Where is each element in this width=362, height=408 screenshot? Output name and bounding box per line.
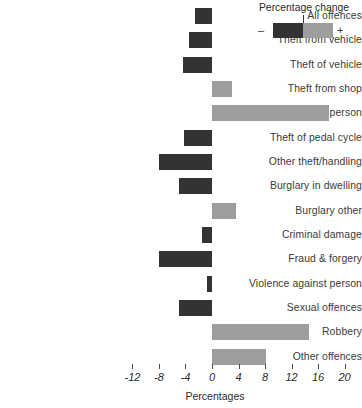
- bar: [179, 178, 212, 194]
- x-axis-tick-mark: [212, 364, 213, 369]
- legend: Percentage change – +: [246, 2, 362, 40]
- legend-swatch-positive: [303, 23, 333, 38]
- category-label: Burglary in dwelling: [236, 180, 362, 192]
- x-axis-tick-mark: [132, 364, 133, 369]
- bar: [183, 57, 212, 73]
- x-axis-tick-mark: [265, 364, 266, 369]
- category-label: Violence against person: [236, 278, 362, 290]
- legend-swatch-negative: [273, 23, 303, 38]
- bar: [212, 105, 329, 121]
- legend-title: Percentage change: [246, 2, 362, 13]
- bar: [212, 203, 236, 219]
- x-axis-tick-mark: [345, 364, 346, 369]
- category-label: Fraud & forgery: [236, 253, 362, 265]
- x-axis-tick-label: 8: [248, 371, 282, 384]
- bar: [159, 154, 212, 170]
- x-axis-tick-mark: [159, 364, 160, 369]
- x-axis-tick-label: 16: [301, 371, 335, 384]
- x-axis-tick-mark: [292, 364, 293, 369]
- x-axis-tick-label: 4: [222, 371, 256, 384]
- x-axis-title: Percentages: [180, 390, 250, 402]
- x-axis-tick-label: -12: [115, 371, 149, 384]
- x-axis-tick-mark: [185, 364, 186, 369]
- bar: [212, 81, 232, 97]
- bar: [207, 276, 212, 292]
- bar: [195, 8, 212, 24]
- legend-plus-symbol: +: [337, 24, 343, 37]
- category-label: Burglary other: [236, 205, 362, 217]
- x-axis-tick-mark: [239, 364, 240, 369]
- bar: [189, 32, 212, 48]
- category-label: Sexual offences: [236, 302, 362, 314]
- x-axis-tick-mark: [318, 364, 319, 369]
- bar-chart: All offencesTheft from vehicleTheft of v…: [0, 0, 362, 408]
- bar: [184, 130, 212, 146]
- bar: [202, 227, 212, 243]
- x-axis-tick-label: -4: [168, 371, 202, 384]
- legend-minus-symbol: –: [258, 24, 264, 37]
- bar: [159, 251, 212, 267]
- x-axis-tick-label: 20: [328, 371, 362, 384]
- category-label: Theft from shop: [236, 83, 362, 95]
- category-label: Criminal damage: [236, 229, 362, 241]
- bar: [212, 324, 309, 340]
- category-label: Other theft/handling: [236, 156, 362, 168]
- x-axis-tick-label: -8: [142, 371, 176, 384]
- category-label: Theft of vehicle: [236, 59, 362, 71]
- bar: [179, 300, 212, 316]
- category-label: Theft of pedal cycle: [236, 132, 362, 144]
- x-axis-tick-label: 12: [275, 371, 309, 384]
- x-axis-tick-label: 0: [195, 371, 229, 384]
- bar: [212, 349, 266, 365]
